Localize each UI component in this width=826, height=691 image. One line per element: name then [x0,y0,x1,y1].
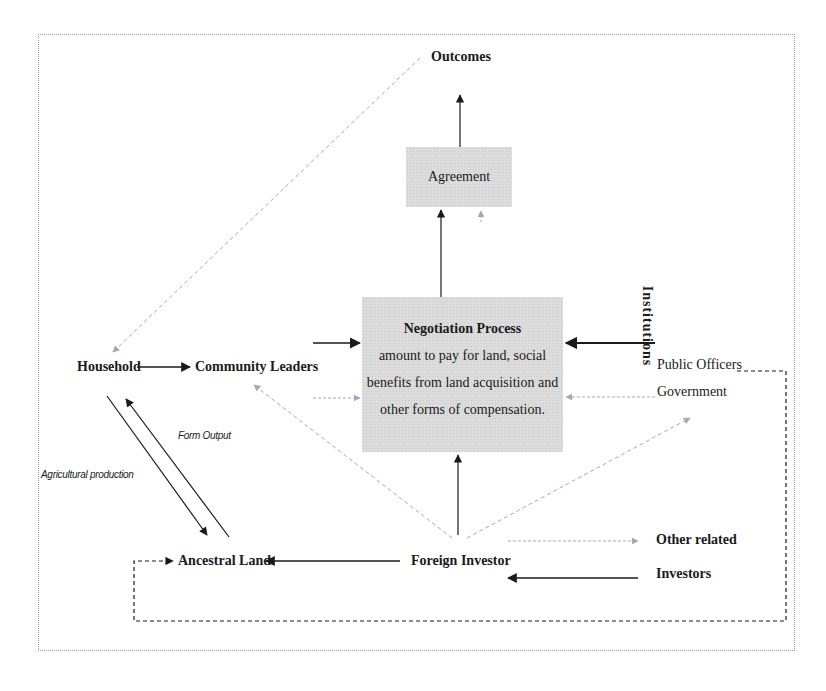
node-household: Household [77,359,141,375]
node-government: Government [657,384,727,400]
node-other-related: Other related [656,532,737,548]
arrow-ancestral-land-to-household [126,399,229,537]
negotiation-line-3: other forms of compensation. [362,396,563,423]
edge-label-agricultural-production: Agricultural production [41,469,134,480]
negotiation-title: Negotiation Process [362,315,563,342]
node-negotiation-process: Negotiation Process amount to pay for la… [362,297,563,452]
node-investors: Investors [656,566,711,582]
arrow-household-to-ancestral-land [107,396,207,535]
node-community-leaders: Community Leaders [195,359,318,375]
node-ancestral-land: Ancestral Land [178,553,271,569]
node-agreement: Agreement [406,147,512,207]
agreement-label: Agreement [428,169,490,185]
edge-label-form-output: Form Output [178,430,231,441]
node-outcomes: Outcomes [431,49,491,65]
negotiation-line-2: benefits from land acquisition and [362,369,563,396]
node-foreign-investor: Foreign Investor [411,553,511,569]
node-institutions: Institutions [639,286,655,366]
node-public-officers: Public Officers [657,357,742,373]
negotiation-line-1: amount to pay for land, social [362,342,563,369]
